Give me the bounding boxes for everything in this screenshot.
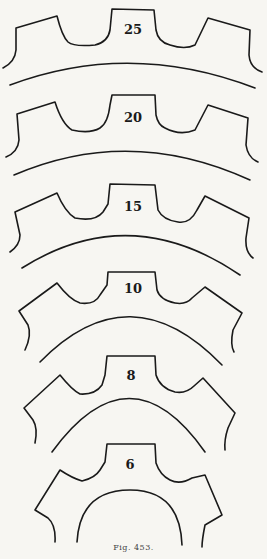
gear-25-pitch-arc (10, 63, 255, 88)
gear-10-label: 10 (113, 281, 153, 296)
gear-20-label: 20 (113, 110, 153, 125)
gear-profiles-drawing (0, 0, 267, 559)
gear-10-pitch-arc (40, 317, 222, 365)
gear-8-label: 8 (111, 368, 151, 383)
gear-15-label: 15 (113, 199, 153, 214)
gear-6-bore-arc (77, 490, 182, 545)
gear-25-label: 25 (113, 22, 153, 37)
figure-caption: Fig. 453. (0, 543, 267, 552)
gear-15-profile (10, 184, 253, 258)
gear-15-pitch-arc (22, 236, 240, 275)
gear-20-pitch-arc (14, 151, 250, 180)
gear-6-label: 6 (110, 457, 150, 472)
gear-tooth-figure: 25 20 15 10 8 6 Fig. 453. (0, 0, 267, 559)
